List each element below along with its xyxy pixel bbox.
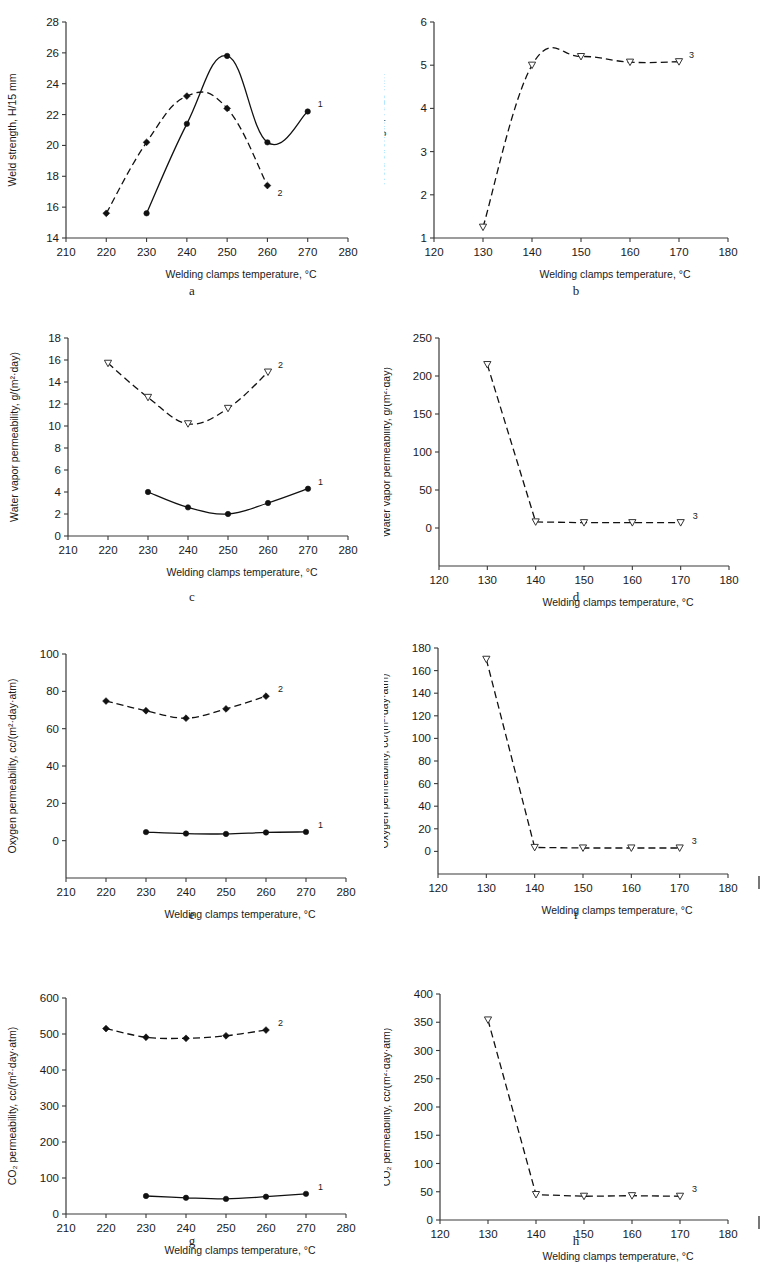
chart-c-plot: 024681012141618210220230240250260270280W…	[0, 312, 384, 628]
data-point-marker	[183, 1035, 190, 1042]
y-axis-tick-label: 200	[40, 1136, 59, 1148]
y-axis-tick-label: 160	[412, 665, 431, 677]
data-point-marker	[143, 829, 148, 834]
x-axis-tick-label: 140	[522, 246, 541, 258]
y-axis-tick-label: 100	[40, 1172, 59, 1184]
y-axis-title: Oxygen permeability, cc/(m²·day·atm)	[384, 674, 390, 849]
series-line	[486, 659, 679, 848]
chart-d-plot: 050100150200250120130140150160170180Wate…	[384, 312, 768, 628]
y-axis-title: Weld strength, H/15 mm	[384, 73, 386, 186]
x-axis-title: Welding clamps temperature, °C	[165, 268, 316, 280]
y-axis-tick-label: 8	[55, 442, 61, 454]
data-point-marker	[483, 656, 490, 662]
x-axis-tick-label: 150	[571, 246, 590, 258]
data-point-marker	[264, 182, 271, 189]
y-axis-tick-label: 0	[53, 1208, 59, 1220]
data-point-marker	[143, 1193, 148, 1198]
data-point-marker	[185, 505, 190, 510]
x-axis-tick-label: 250	[216, 886, 235, 898]
chart-svg-c: 024681012141618210220230240250260270280W…	[0, 312, 384, 624]
data-point-marker	[303, 829, 308, 834]
y-axis-tick-label: 180	[412, 642, 431, 654]
x-axis-title: Welding clamps temperature, °C	[166, 566, 317, 578]
x-axis-tick-label: 150	[573, 882, 592, 894]
data-point-marker	[305, 486, 310, 491]
x-axis-tick-label: 130	[478, 574, 497, 586]
data-point-marker	[263, 1194, 268, 1199]
data-point-marker	[183, 93, 190, 100]
y-axis-tick-label: 14	[48, 376, 61, 388]
series-label-2: 2	[278, 684, 283, 694]
y-axis-tick-label: 26	[46, 47, 59, 59]
series-3: 3	[479, 48, 694, 231]
chart-e-plot: 020406080100210220230240250260270280Oxyg…	[0, 624, 384, 940]
x-axis-tick-label: 240	[176, 886, 195, 898]
series-1: 1	[144, 53, 323, 216]
data-point-marker	[263, 830, 268, 835]
panel-letter-b: b	[384, 283, 768, 299]
series-label-2: 2	[277, 188, 282, 198]
data-point-marker	[144, 211, 149, 216]
x-axis-tick-label: 240	[177, 246, 196, 258]
figure-panel-grid: 1416182022242628210220230240250260270280…	[0, 0, 768, 1286]
data-point-marker	[103, 698, 110, 705]
chart-f-plot: 0204060801001201401601801201301401501601…	[384, 624, 768, 940]
x-axis-tick-label: 210	[58, 544, 77, 556]
y-axis-tick-label: 60	[418, 778, 431, 790]
data-point-marker	[184, 121, 189, 126]
y-axis-tick-label: 6	[55, 464, 61, 476]
y-axis-tick-label: 250	[414, 1073, 433, 1085]
scan-artifact-right-h	[758, 1216, 760, 1229]
y-axis-tick-label: 150	[413, 408, 432, 420]
panel-letter-h: h	[384, 1233, 768, 1249]
panel-letter-e: e	[0, 907, 384, 923]
data-point-marker	[265, 500, 270, 505]
y-axis-tick-label: 18	[46, 170, 59, 182]
y-axis-tick-label: 60	[46, 723, 59, 735]
y-axis-tick-label: 50	[420, 1186, 433, 1198]
y-axis-tick-label: 12	[48, 398, 61, 410]
y-axis-tick-label: 150	[414, 1129, 433, 1141]
panel-letter-f: f	[384, 907, 768, 923]
series-1: 1	[143, 1182, 323, 1202]
series-label-3: 3	[692, 1184, 697, 1194]
x-axis-tick-label: 180	[718, 246, 737, 258]
y-axis-tick-label: 100	[412, 732, 431, 744]
y-axis-tick-label: 18	[48, 332, 61, 344]
series-2: 2	[104, 360, 283, 427]
series-label-1: 1	[318, 1182, 323, 1192]
series-line	[488, 1020, 680, 1196]
data-point-marker	[183, 715, 190, 722]
y-axis-tick-label: 500	[40, 1028, 59, 1040]
y-axis-tick-label: 400	[40, 1064, 59, 1076]
data-point-marker	[263, 693, 270, 700]
y-axis-tick-label: 80	[418, 755, 431, 767]
y-axis-tick-label: 200	[413, 370, 432, 382]
y-axis-tick-label: 4	[421, 102, 428, 114]
x-axis-tick-label: 170	[671, 574, 690, 586]
series-2: 2	[103, 684, 283, 721]
chart-panel-f: 0204060801001201401601801201301401501601…	[384, 624, 768, 936]
data-point-marker	[223, 1196, 228, 1201]
chart-svg-b: 123456120130140150160170180Weld strength…	[384, 0, 768, 312]
series-line	[108, 363, 268, 424]
y-axis-tick-label: 200	[414, 1101, 433, 1113]
series-3: 3	[483, 656, 697, 851]
y-axis-tick-label: 2	[421, 189, 427, 201]
x-axis-tick-label: 160	[623, 574, 642, 586]
y-axis-tick-label: 300	[414, 1045, 433, 1057]
x-axis-tick-label: 270	[298, 544, 317, 556]
panel-letter-a: a	[0, 283, 384, 299]
chart-panel-g: 0100200300400500600210220230240250260270…	[0, 936, 384, 1286]
scan-artifact-right-f	[758, 876, 760, 889]
data-point-marker	[183, 1195, 188, 1200]
y-axis-tick-label: 20	[418, 823, 431, 835]
data-point-marker	[265, 140, 270, 145]
series-label-3: 3	[692, 836, 697, 846]
series-line	[148, 489, 308, 514]
y-axis-tick-label: 250	[413, 332, 432, 344]
chart-svg-f: 0204060801001201401601801201301401501601…	[384, 624, 768, 936]
data-point-marker	[223, 1032, 230, 1039]
series-label-3: 3	[689, 50, 694, 60]
data-point-marker	[145, 489, 150, 494]
